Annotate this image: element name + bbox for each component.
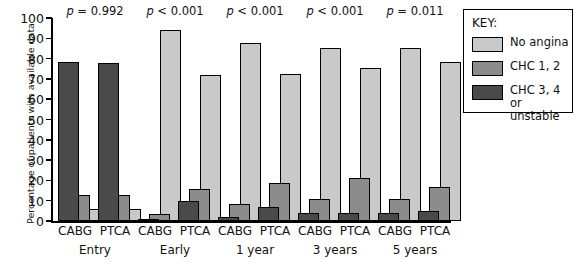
- y-tick-label: 10: [28, 193, 44, 208]
- y-tick-mark: [46, 139, 52, 141]
- legend-item: CHC 3, 4 or unstable: [472, 84, 572, 123]
- x-tick-label: PTCA: [100, 224, 130, 238]
- legend-swatch: [472, 61, 503, 76]
- x-tick-label: PTCA: [420, 224, 450, 238]
- group-caption: 3 years: [313, 243, 357, 257]
- legend: KEY: No anginaCHC 1, 2CHC 3, 4 or unstab…: [463, 9, 573, 113]
- legend-swatch: [472, 85, 503, 100]
- bar-chc34: [98, 63, 119, 221]
- bar-no-angina: [320, 48, 341, 221]
- bar-chc34: [338, 213, 359, 221]
- bar-group-early: p < 0.001CABGPTCAEarly: [136, 18, 214, 221]
- x-tick-label: CABG: [298, 224, 332, 238]
- bar-arm-ptca: PTCA: [338, 18, 372, 221]
- x-tick-label: CABG: [218, 224, 252, 238]
- bar-arm-ptca: PTCA: [418, 18, 452, 221]
- y-tick-label: 30: [28, 153, 44, 168]
- group-caption: Early: [160, 243, 190, 257]
- group-caption: 1 year: [236, 243, 274, 257]
- y-tick-label: 50: [28, 112, 44, 127]
- legend-label: CHC 1, 2: [510, 60, 560, 73]
- y-tick-label: 60: [28, 92, 44, 107]
- y-tick-mark: [46, 58, 52, 60]
- bar-chc34: [58, 62, 79, 221]
- y-tick-label: 100: [20, 11, 44, 26]
- y-tick-mark: [46, 78, 52, 80]
- bar-arm-cabg: CABG: [378, 18, 412, 221]
- legend-item: CHC 1, 2: [472, 60, 560, 76]
- legend-item: No angina: [472, 36, 568, 52]
- y-tick-label: 20: [28, 173, 44, 188]
- x-tick-label: CABG: [58, 224, 92, 238]
- plot-area: 1009080706050403020100 p = 0.992CABGPTCA…: [52, 18, 450, 221]
- y-tick-label: 40: [28, 132, 44, 147]
- bar-arm-ptca: PTCA: [178, 18, 212, 221]
- bar-chc34: [218, 217, 239, 221]
- bar-chc34: [418, 211, 439, 221]
- group-caption: Entry: [79, 243, 111, 257]
- y-tick-mark: [46, 98, 52, 100]
- bar-chart: Percentage of patients with available da…: [0, 0, 581, 278]
- y-tick-label: 0: [36, 214, 44, 229]
- x-tick-label: PTCA: [340, 224, 370, 238]
- bar-arm-cabg: CABG: [58, 18, 92, 221]
- bar-chc34: [378, 213, 399, 221]
- x-tick-label: CABG: [378, 224, 412, 238]
- bar-no-angina: [160, 30, 181, 221]
- bar-chc34: [258, 207, 279, 221]
- p-value-label: p < 0.001: [146, 4, 203, 18]
- y-tick-mark: [46, 119, 52, 121]
- bar-group-3-years: p < 0.001CABGPTCA3 years: [296, 18, 374, 221]
- bar-group-5-years: p = 0.011CABGPTCA5 years: [376, 18, 454, 221]
- x-tick-label: PTCA: [180, 224, 210, 238]
- y-tick-mark: [46, 17, 52, 19]
- group-caption: 5 years: [393, 243, 437, 257]
- bar-arm-cabg: CABG: [218, 18, 252, 221]
- y-tick-label: 70: [28, 71, 44, 86]
- x-axis-line: [51, 221, 451, 223]
- bar-arm-cabg: CABG: [138, 18, 172, 221]
- bar-group-entry: p = 0.992CABGPTCAEntry: [56, 18, 134, 221]
- x-tick-label: CABG: [138, 224, 172, 238]
- y-tick-mark: [46, 180, 52, 182]
- legend-label: CHC 3, 4 or unstable: [510, 84, 572, 123]
- bar-chc34: [138, 219, 159, 221]
- legend-label: No angina: [510, 36, 568, 49]
- bar-chc34: [178, 201, 199, 221]
- bar-arm-ptca: PTCA: [258, 18, 292, 221]
- legend-swatch: [472, 37, 503, 52]
- x-tick-label: PTCA: [260, 224, 290, 238]
- p-value-label: p = 0.011: [386, 4, 443, 18]
- bar-chc34: [298, 213, 319, 221]
- p-value-label: p = 0.992: [66, 4, 123, 18]
- p-value-label: p < 0.001: [306, 4, 363, 18]
- y-tick-mark: [46, 38, 52, 40]
- bar-arm-ptca: PTCA: [98, 18, 132, 221]
- y-tick-label: 80: [28, 51, 44, 66]
- bar-no-angina: [400, 48, 421, 221]
- y-tick-label: 90: [28, 31, 44, 46]
- y-tick-mark: [46, 220, 52, 222]
- y-tick-mark: [46, 159, 52, 161]
- bar-arm-cabg: CABG: [298, 18, 332, 221]
- y-tick-mark: [46, 200, 52, 202]
- bar-group-1-year: p < 0.001CABGPTCA1 year: [216, 18, 294, 221]
- bar-no-angina: [240, 43, 261, 221]
- legend-title: KEY:: [472, 16, 497, 30]
- p-value-label: p < 0.001: [226, 4, 283, 18]
